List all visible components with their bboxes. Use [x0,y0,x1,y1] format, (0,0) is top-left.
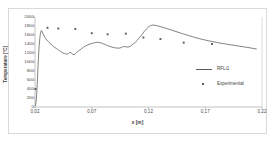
data-point-marker [211,43,213,45]
legend-line-swatch [196,69,212,70]
axis-lines [35,17,262,107]
y-tick-label: 200 [27,96,34,100]
legend-label-rfli1: RFLi1 [217,66,229,72]
legend-item-rfli1: RFLi1 [196,65,266,73]
series-points-experimental [35,27,213,90]
x-tick-label: 0,22 [258,110,267,115]
data-point-marker [91,32,93,34]
x-tick-label: 0,12 [144,110,153,115]
data-point-marker [47,27,49,29]
x-tick-label: 0,17 [201,110,210,115]
data-point-marker [35,88,37,90]
data-point-marker [159,38,161,40]
y-tick-label: 2000 [24,15,34,19]
legend-item-experimental: Experimental [196,80,266,88]
y-tick-label: 1400 [24,42,34,46]
legend-label-experimental: Experimental [217,81,244,87]
data-point-marker [183,42,185,44]
y-tick-label: 800 [27,69,34,73]
x-axis-title: x [m] [0,121,275,126]
legend-square-swatch [202,83,204,85]
chart-container: 0200400600800100012001400160018002000 0,… [0,0,275,143]
data-point-marker [125,33,127,35]
data-point-marker [74,28,76,30]
y-tick-label: 1200 [24,51,34,55]
data-point-marker [107,33,109,35]
y-tick-label: 400 [27,87,34,91]
data-point-marker [57,28,59,30]
x-tick-labels: 0,020,070,120,170,22 [0,110,275,118]
x-tick-label: 0,02 [31,110,40,115]
y-axis-title: Temperature [°C] [4,28,9,100]
x-tick-label: 0,07 [87,110,96,115]
y-tick-label: 1800 [24,24,34,28]
y-tick-label: 1600 [24,33,34,37]
y-tick-label: 1000 [24,60,34,64]
y-tick-label: 600 [27,78,34,82]
data-point-marker [142,37,144,39]
chart-legend: RFLi1 Experimental [196,63,266,93]
